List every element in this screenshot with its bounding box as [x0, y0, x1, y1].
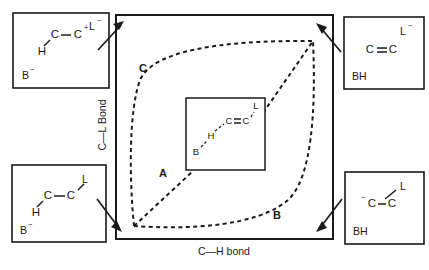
- top-left-atom-h: H: [38, 45, 46, 57]
- bottom-right-atom-c1: C: [368, 197, 376, 209]
- arrow-head-top-left: [113, 21, 124, 30]
- ts-atom-h: H: [208, 130, 215, 141]
- bottom-left-leaving-group-label: L: [82, 173, 88, 185]
- bottom-right-leaving-group-label: L: [400, 180, 406, 192]
- bottom-left-atom-c2: C: [67, 189, 75, 201]
- bottom-left-base-label: B: [20, 224, 27, 236]
- region-label-a: A: [159, 167, 167, 179]
- more-ofarrall-jencks-diagram: C—H bond C—L Bond A B C B H C C L L − C …: [0, 0, 429, 270]
- top-left-base-label: B: [22, 69, 29, 81]
- bottom-right-conjugate-acid-label: BH: [353, 225, 368, 237]
- top-left-leaving-group-charge: −: [97, 16, 102, 25]
- bottom-right-carbanion-charge: −: [361, 193, 366, 202]
- top-right-conjugate-acid-label: BH: [352, 70, 367, 82]
- top-left-carbocation-charge: +: [84, 23, 89, 32]
- bottom-left-atom-c1: C: [44, 189, 52, 201]
- region-label-c: C: [139, 62, 147, 74]
- top-left-atom-c2: C: [74, 28, 82, 40]
- top-left-base-charge: −: [30, 65, 35, 74]
- region-label-b: B: [273, 209, 281, 221]
- bottom-right-atom-c2: C: [388, 197, 396, 209]
- top-right-leaving-group-charge: −: [408, 21, 413, 30]
- y-axis-label: C—L Bond: [96, 99, 108, 150]
- bottom-left-atom-h: H: [32, 206, 40, 218]
- x-axis-label: C—H bond: [198, 245, 250, 257]
- diagram-canvas: C—H bond C—L Bond A B C B H C C L L − C …: [0, 0, 429, 270]
- top-left-leaving-group-label: L: [89, 20, 95, 32]
- top-right-leaving-group-label: L: [400, 25, 406, 37]
- arrow-head-bottom-right: [316, 221, 327, 232]
- top-right-atom-c1: C: [366, 43, 374, 55]
- top-left-atom-c1: C: [51, 28, 59, 40]
- ts-atom-l: L: [253, 100, 258, 111]
- bottom-left-base-charge: −: [28, 220, 33, 229]
- ts-atom-c1: C: [226, 115, 233, 126]
- ts-atom-b: B: [193, 146, 199, 157]
- top-right-atom-c2: C: [389, 43, 397, 55]
- ts-atom-c2: C: [243, 115, 250, 126]
